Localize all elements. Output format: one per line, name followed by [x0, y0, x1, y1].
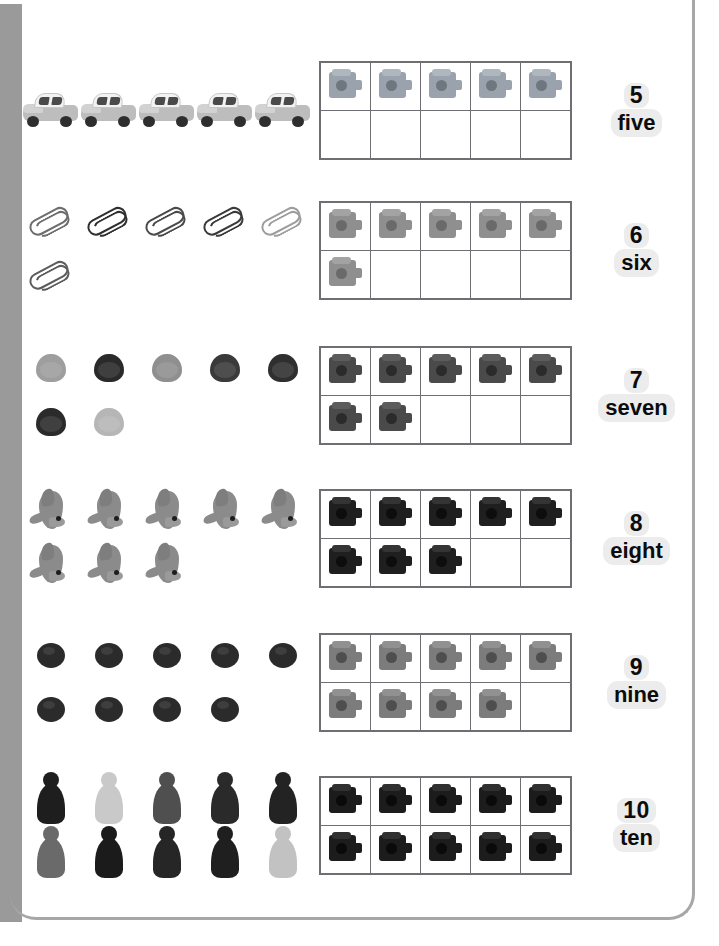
- game-pawn-icon: [94, 772, 124, 824]
- snap-cube-icon: [479, 497, 512, 527]
- ten-frame-cell[interactable]: [320, 395, 371, 444]
- snap-cube-icon: [329, 354, 362, 384]
- number-label-group: 8eight: [572, 511, 697, 564]
- ten-frame-cell[interactable]: [470, 250, 520, 299]
- ten-frame-cell[interactable]: [420, 538, 470, 587]
- ten-frame-cell[interactable]: [320, 634, 371, 683]
- object-slot: [196, 484, 254, 538]
- ten-frame-cell[interactable]: [520, 347, 571, 396]
- ten-frame-cell[interactable]: [370, 202, 420, 251]
- ten-frame-cell[interactable]: [520, 490, 571, 539]
- snap-cube-icon: [429, 689, 462, 719]
- paper-clip-icon: [81, 197, 138, 249]
- objects-group-toy-car: [22, 50, 318, 170]
- tenframe-cell-container: [318, 201, 572, 300]
- ten-frame-cell[interactable]: [320, 202, 371, 251]
- object-line: [22, 250, 318, 304]
- ten-frame-cell[interactable]: [420, 347, 470, 396]
- ten-frame-cell[interactable]: [520, 682, 571, 731]
- ten-frame-cell[interactable]: [320, 62, 371, 111]
- ten-frame-cell[interactable]: [370, 110, 420, 159]
- ten-frame-cell[interactable]: [470, 490, 520, 539]
- ten-frame-cell[interactable]: [420, 490, 470, 539]
- ten-frame-cell[interactable]: [420, 634, 470, 683]
- ten-frame-cell[interactable]: [470, 777, 520, 826]
- ten-frame-cell[interactable]: [420, 110, 470, 159]
- ten-frame-cell[interactable]: [320, 538, 371, 587]
- numeral-label: 10: [617, 798, 656, 822]
- ten-frame-cell[interactable]: [370, 250, 420, 299]
- ten-frame-cell[interactable]: [320, 490, 371, 539]
- snap-cube-icon: [329, 497, 362, 527]
- shell-icon: [94, 354, 124, 382]
- game-pawn-icon: [94, 826, 124, 878]
- dolphin-icon: [28, 543, 74, 587]
- ten-frame-cell[interactable]: [470, 110, 520, 159]
- object-slot: [22, 682, 80, 736]
- bead-icon: [211, 643, 239, 668]
- ten-frame-cell[interactable]: [370, 538, 420, 587]
- ten-frame-cell[interactable]: [420, 202, 470, 251]
- ten-frame-row: [320, 634, 571, 683]
- ten-frame-cell[interactable]: [520, 110, 571, 159]
- ten-frame-cell[interactable]: [320, 250, 371, 299]
- ten-frame-cell[interactable]: [420, 62, 470, 111]
- ten-frame-cell[interactable]: [320, 347, 371, 396]
- dolphin-icon: [202, 489, 248, 533]
- ten-frame-cell[interactable]: [420, 395, 470, 444]
- ten-frame-cell[interactable]: [470, 538, 520, 587]
- ten-frame-cell[interactable]: [420, 777, 470, 826]
- ten-frame-cell[interactable]: [470, 395, 520, 444]
- ten-frame-cell[interactable]: [470, 634, 520, 683]
- ten-frame-cell[interactable]: [520, 202, 571, 251]
- ten-frame-cell[interactable]: [520, 395, 571, 444]
- ten-frame-cell[interactable]: [320, 777, 371, 826]
- tenframe-cell-container: [318, 346, 572, 445]
- object-slot: [22, 83, 80, 137]
- ten-frame-cell[interactable]: [520, 634, 571, 683]
- number-word-label: eight: [603, 537, 670, 565]
- ten-frame-cell[interactable]: [320, 110, 371, 159]
- ten-frame-cell[interactable]: [520, 777, 571, 826]
- ten-frame[interactable]: [319, 346, 572, 445]
- ten-frame-cell[interactable]: [370, 490, 420, 539]
- ten-frame-cell[interactable]: [420, 250, 470, 299]
- ten-frame-cell[interactable]: [320, 825, 371, 874]
- ten-frame[interactable]: [319, 776, 572, 875]
- ten-frame-cell[interactable]: [520, 825, 571, 874]
- ten-frame-cell[interactable]: [520, 250, 571, 299]
- ten-frame-cell[interactable]: [370, 825, 420, 874]
- object-slot: [80, 341, 138, 395]
- ten-frame-cell[interactable]: [520, 538, 571, 587]
- ten-frame[interactable]: [319, 489, 572, 588]
- ten-frame-cell[interactable]: [470, 62, 520, 111]
- ten-frame-row: [320, 538, 571, 587]
- object-slot: [138, 628, 196, 682]
- ten-frame[interactable]: [319, 201, 572, 300]
- ten-frame-cell[interactable]: [370, 634, 420, 683]
- game-pawn-icon: [210, 826, 240, 878]
- ten-frame[interactable]: [319, 61, 572, 160]
- ten-frame-cell[interactable]: [370, 682, 420, 731]
- dolphin-icon: [86, 489, 132, 533]
- ten-frame-cell[interactable]: [370, 62, 420, 111]
- ten-frame-cell[interactable]: [470, 825, 520, 874]
- ten-frame-cell[interactable]: [470, 682, 520, 731]
- snap-cube-icon: [429, 545, 462, 575]
- ten-frame-cell[interactable]: [420, 825, 470, 874]
- ten-frame-cell[interactable]: [370, 395, 420, 444]
- paper-clip-icon: [255, 197, 312, 249]
- ten-frame-cell[interactable]: [370, 347, 420, 396]
- ten-frame-cell[interactable]: [370, 777, 420, 826]
- ten-frame-cell[interactable]: [470, 202, 520, 251]
- ten-frame-cell[interactable]: [320, 682, 371, 731]
- object-slot: [138, 771, 196, 825]
- ten-frame-cell[interactable]: [520, 62, 571, 111]
- snap-cube-icon: [329, 832, 362, 862]
- ten-frame[interactable]: [319, 633, 572, 732]
- shell-icon: [152, 354, 182, 382]
- ten-frame-cell[interactable]: [420, 682, 470, 731]
- ten-frame-cell[interactable]: [470, 347, 520, 396]
- paper-clip-icon: [139, 197, 196, 249]
- object-slot: [80, 771, 138, 825]
